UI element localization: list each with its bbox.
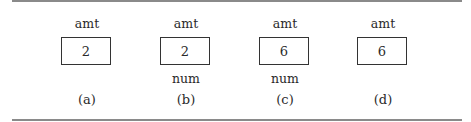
- variable-value: 6: [280, 44, 288, 59]
- panel-a: amt 2 (a): [37, 0, 137, 118]
- variable-value: 2: [181, 44, 189, 59]
- variable-value: 6: [378, 44, 386, 59]
- variable-box: 2: [61, 37, 111, 65]
- variable-box: 6: [259, 37, 309, 65]
- alias-name: num: [136, 72, 236, 86]
- panel-b: amt 2 num (b): [136, 0, 236, 118]
- variable-name: amt: [235, 17, 335, 31]
- variable-value: 2: [82, 44, 90, 59]
- panel-c: amt 6 num (c): [235, 0, 335, 118]
- panel-caption: (a): [37, 93, 137, 107]
- variable-box: 6: [357, 37, 407, 65]
- panel-caption: (d): [333, 93, 433, 107]
- variable-name: amt: [333, 17, 433, 31]
- panel-caption: (c): [235, 93, 335, 107]
- panel-caption: (b): [136, 93, 236, 107]
- alias-name: num: [235, 72, 335, 86]
- panel-d: amt 6 (d): [333, 0, 433, 118]
- bottom-rule: [12, 119, 462, 121]
- variable-box: 2: [160, 37, 210, 65]
- variable-name: amt: [136, 17, 236, 31]
- variable-name: amt: [37, 17, 137, 31]
